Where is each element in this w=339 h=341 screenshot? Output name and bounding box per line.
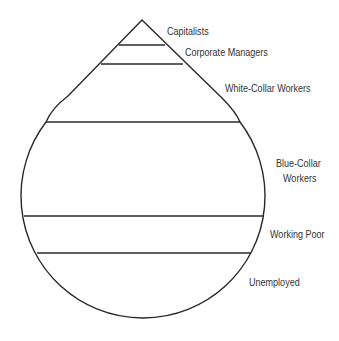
label-unemployed: Unemployed xyxy=(249,276,300,289)
label-white-collar-workers: White-Collar Workers xyxy=(225,82,311,95)
label-working-poor: Working Poor xyxy=(270,228,325,241)
label-corporate-managers: Corporate Managers xyxy=(185,46,268,59)
label-capitalists: Capitalists xyxy=(167,25,209,38)
label-blue-collar-line2: Workers xyxy=(283,172,316,185)
teardrop-diagram xyxy=(0,0,339,341)
label-blue-collar-line1: Blue-Collar xyxy=(276,157,321,170)
